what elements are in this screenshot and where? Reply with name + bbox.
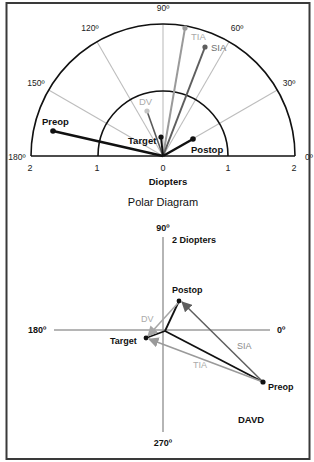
polar-label-tia: TIA [191, 31, 206, 42]
davd-label-dv: DV [141, 314, 154, 324]
davd-title: DAVD [238, 414, 264, 425]
angle-label-60: 60º [231, 23, 244, 33]
angle-label-120: 120º [81, 23, 98, 33]
davd-angle-270: 270º [154, 438, 173, 448]
polar-point-dv [144, 108, 149, 113]
tick-label-right-1: 1 [225, 163, 230, 173]
angle-label-30: 30º [283, 78, 296, 88]
davd-label-postop: Postop [172, 285, 203, 295]
angle-label-180: 180º [8, 152, 25, 162]
angle-label-150: 150º [27, 78, 44, 88]
polar-label-target: Target [128, 135, 157, 146]
polar-label-sia: SIA [211, 42, 227, 53]
tick-label-left-1: 1 [94, 163, 99, 173]
polar-point-postop [190, 136, 196, 142]
polar-label-preop: Preop [42, 116, 69, 127]
davd-point-target [144, 336, 149, 341]
davd-label-preop: Preop [268, 382, 294, 392]
angle-label-90: 90º [157, 3, 170, 13]
davd-angle-180: 180º [28, 325, 47, 335]
angle-label-0: 0º [305, 152, 313, 162]
davd-scale-label: 2 Diopters [172, 235, 216, 245]
polar-xlabel: Diopters [149, 176, 188, 187]
davd-point-postop [177, 299, 182, 304]
polar-title: Polar Diagram [128, 196, 198, 208]
tick-label-left-2: 2 [27, 163, 32, 173]
davd-angle-90: 90º [156, 223, 170, 233]
davd-label-sia: SIA [237, 341, 252, 351]
figure: 90º 120º 60º 150º 30º 180º 0º 2 1 0 1 2 … [0, 0, 314, 462]
polar-label-dv: DV [139, 96, 153, 107]
tick-label-0: 0 [160, 163, 165, 173]
polar-point-target [158, 134, 163, 139]
davd-label-target: Target [110, 336, 137, 346]
polar-point-preop [50, 128, 56, 134]
davd-angle-0: 0º [277, 325, 286, 335]
davd-point-preop [260, 379, 265, 384]
tick-label-right-2: 2 [291, 163, 296, 173]
polar-point-tia [182, 25, 187, 30]
davd-label-tia: TIA [193, 360, 207, 370]
polar-point-sia [202, 44, 207, 49]
polar-label-postop: Postop [191, 144, 223, 155]
